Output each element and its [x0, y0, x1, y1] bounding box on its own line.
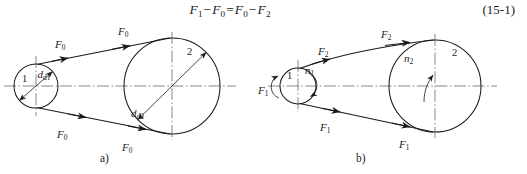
belt-direction-arrow-upper-left-a: [52, 58, 68, 61]
pulley-2-number-b: 2: [452, 47, 457, 58]
force-label-slack-left-b: F2: [317, 45, 329, 59]
equation-term-f1: F1: [190, 2, 203, 17]
force-label-lower-right-a: F0: [121, 141, 133, 155]
diameter-line-pulley1-lower-a: [19, 86, 36, 100]
equation-term-f0-a: F0: [212, 2, 225, 17]
equation-number: (15-1): [483, 2, 516, 18]
rotation-arrow-outer-b: [271, 76, 279, 98]
force-label-upper-left-a: F0: [54, 38, 66, 52]
belt-direction-arrow-tight-right-b: [392, 123, 410, 127]
belt-direction-arrow-slack-left-b: [312, 59, 330, 64]
belt-direction-arrow-lower-left-a: [68, 114, 86, 118]
force-label-slack-right-b: F2: [380, 28, 392, 42]
force-label-tight-right-b: F1: [398, 138, 410, 152]
force-label-tight-left-b: F1: [319, 121, 331, 135]
force-label-far-left-b: F1: [257, 84, 269, 98]
diameter-line-pulley2-upper-a: [172, 52, 206, 86]
diagram-a: dd1 dd2 1 2 F0 F0 F0 F0: [4, 26, 236, 155]
belt-drive-figure: dd1 dd2 1 2 F0 F0 F0 F0: [0, 26, 527, 174]
equation-term-f0-b: F0: [235, 2, 248, 17]
equation-equals: =: [225, 2, 235, 17]
equation-expression: F1−F0=F0−F2: [0, 2, 460, 19]
figure-page: F1−F0=F0−F2 (15-1): [0, 0, 527, 174]
pulley-2-number-a: 2: [187, 46, 192, 57]
equation-term-f2: F2: [257, 2, 270, 17]
diagram-b: n1 n2 1 2 F1 F2 F2 F1 F1: [257, 28, 497, 152]
force-label-upper-right-a: F0: [117, 26, 129, 39]
speed-label-n1-b: n1: [305, 64, 315, 78]
belt-direction-arrow-tight-left-b: [322, 108, 340, 112]
pulley-1-number-b: 1: [287, 70, 292, 81]
caption-b: b): [356, 152, 366, 164]
diameter-label-pulley1-a: dd1: [38, 68, 51, 82]
caption-a: a): [100, 152, 109, 164]
equation-minus-1: −: [203, 2, 213, 17]
speed-label-n2-b: n2: [404, 52, 414, 66]
force-label-lower-left-a: F0: [56, 128, 68, 142]
pulley-1-number-a: 1: [22, 73, 27, 84]
belt-direction-arrow-upper-right-a: [112, 46, 130, 50]
rotation-arrow-n2-b: [424, 75, 433, 102]
equation-line: F1−F0=F0−F2 (15-1): [0, 2, 527, 24]
diameter-label-pulley2-a: dd2: [131, 107, 144, 121]
belt-direction-arrow-lower-right-a: [128, 126, 146, 130]
